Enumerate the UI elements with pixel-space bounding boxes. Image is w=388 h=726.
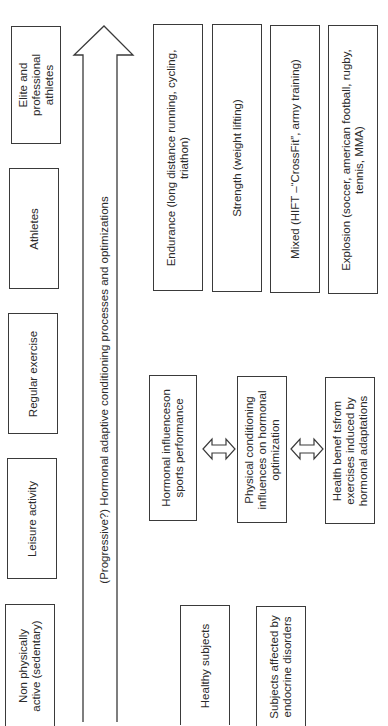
sport-type-label-mixed: Mixed (HIFT –“CrossFit”, army training): [289, 34, 302, 284]
sport-type-box-explosion: Explosion (soccer, american football, ru…: [328, 25, 378, 294]
hormonal-influence-label: Hormonal influenceson sports performance: [160, 388, 186, 508]
sport-type-box-strength: Strength (weight lifting): [212, 24, 262, 292]
health-benefits-label: Health benef tsfrom exercises induced by…: [331, 386, 370, 516]
progression-arrow-label: (Progressive?) Hormonal adaptive conditi…: [98, 196, 110, 583]
sport-type-label-strength: Strength (weight lifting): [231, 33, 244, 283]
sport-type-box-mixed: Mixed (HIFT –“CrossFit”, army training): [270, 25, 320, 293]
subject-group-box-healthy: Healthy subjects: [180, 605, 230, 725]
sport-type-label-explosion: Explosion (soccer, american football, ru…: [340, 44, 366, 276]
sport-type-label-endurance: Endurance (long distance running, cyclin…: [165, 33, 191, 283]
subject-group-label-endocrine: Subjects affected by endocrine disorders: [268, 612, 294, 722]
sport-type-box-endurance: Endurance (long distance running, cyclin…: [153, 24, 203, 291]
double-arrow-icon: [290, 437, 324, 461]
physical-conditioning-box: Physical conditioning influences on horm…: [237, 376, 287, 523]
physical-conditioning-label: Physical conditioning influences on horm…: [243, 385, 282, 515]
subject-group-label-healthy: Healthy subjects: [199, 611, 212, 721]
subject-group-box-endocrine: Subjects affected by endocrine disorders: [256, 606, 306, 726]
double-arrow-icon: [202, 437, 236, 461]
hormonal-influence-box: Hormonal influenceson sports performance: [149, 375, 197, 521]
health-benefits-box: Health benef tsfrom exercises induced by…: [325, 377, 375, 524]
